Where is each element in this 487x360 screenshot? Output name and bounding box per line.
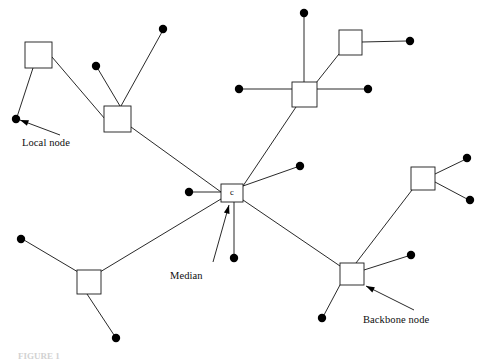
annotation-label-local-node: Local node — [22, 137, 70, 148]
local-node-dot-center-left[interactable] — [185, 188, 193, 196]
network-link — [364, 256, 408, 270]
backbone-node-bottom-left-shape[interactable] — [77, 270, 101, 294]
local-node-dot-upper-mid-b[interactable] — [159, 25, 167, 33]
backbone-node-upper-mid[interactable] — [104, 106, 131, 132]
local-node-dot-upper-left[interactable] — [12, 115, 20, 123]
backbone-node-right-mid-shape[interactable] — [411, 167, 435, 190]
local-node-dot-backbone-r[interactable] — [407, 251, 415, 259]
network-link — [24, 240, 78, 272]
network-link — [100, 199, 221, 272]
local-node-dot-hub-right[interactable] — [364, 85, 372, 93]
local-node-dot-center-below[interactable] — [230, 254, 238, 262]
annotation-label-backbone-node: Backbone node — [363, 314, 429, 325]
network-link — [435, 182, 467, 199]
network-link — [356, 190, 412, 263]
local-node-dot-upper-mid-a[interactable] — [92, 62, 100, 70]
backbone-node-top-right[interactable] — [339, 30, 362, 55]
backbone-node-bottom-right[interactable] — [340, 263, 364, 285]
backbone-node-bottom-right-shape[interactable] — [340, 263, 364, 285]
local-node-dot-top-right[interactable] — [406, 37, 414, 45]
figure-caption-clipped: FIGURE 1 — [18, 351, 60, 360]
network-link — [362, 41, 407, 42]
annotation-arrow-shaft — [213, 205, 229, 262]
annotation-arrow-head — [366, 286, 375, 292]
network-link — [243, 200, 340, 266]
network-diagram-canvas: c — [0, 0, 487, 360]
backbone-node-bottom-left[interactable] — [77, 270, 101, 294]
network-diagram-figure: c Local node Median Backbone node FIGURE… — [0, 0, 487, 360]
network-link — [121, 32, 162, 106]
backbone-node-upper-right[interactable] — [292, 82, 317, 107]
local-node-dot-hub-left[interactable] — [235, 85, 243, 93]
backbone-node-top-left[interactable] — [25, 42, 52, 68]
annotation-arrow-median — [213, 205, 229, 262]
local-node-dot-backbone-low[interactable] — [318, 314, 326, 322]
network-link — [98, 69, 120, 106]
network-link — [17, 68, 33, 117]
center-node-label: c — [230, 187, 234, 197]
backbone-nodes-layer: c — [25, 30, 435, 294]
annotation-arrow-head — [20, 120, 29, 126]
center-median-node[interactable]: c — [221, 184, 243, 202]
network-link — [435, 160, 464, 174]
network-link — [324, 285, 340, 315]
local-node-dot-center-ur[interactable] — [296, 162, 304, 170]
annotation-arrow-head — [224, 205, 230, 214]
local-node-dot-right-upper[interactable] — [463, 154, 471, 162]
backbone-node-right-mid[interactable] — [411, 167, 435, 190]
backbone-node-upper-mid-shape[interactable] — [104, 106, 131, 132]
annotation-arrow-backbone-node — [366, 286, 414, 310]
local-node-dot-right-lower[interactable] — [466, 196, 474, 204]
annotation-label-median: Median — [170, 270, 203, 281]
local-node-dot-hub-top[interactable] — [300, 9, 308, 17]
network-link — [243, 107, 296, 186]
backbone-node-top-left-shape[interactable] — [25, 42, 52, 68]
backbone-node-top-right-shape[interactable] — [339, 30, 362, 55]
annotation-arrow-local-node — [20, 120, 60, 135]
local-node-dot-bl-west[interactable] — [17, 235, 25, 243]
network-link — [243, 167, 297, 186]
network-link — [131, 127, 221, 192]
local-node-dot-bl-south[interactable] — [112, 334, 120, 342]
network-link — [87, 294, 114, 335]
network-link — [316, 54, 339, 83]
backbone-node-upper-right-shape[interactable] — [292, 82, 317, 107]
